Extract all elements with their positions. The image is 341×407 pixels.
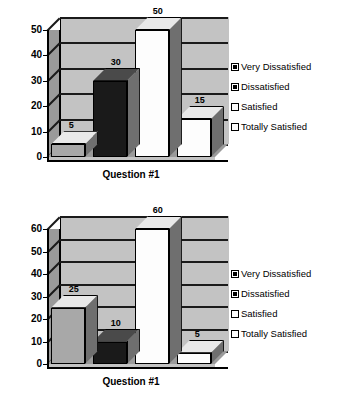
bar-value-label: 25: [69, 285, 79, 294]
chart-legend: Very DissatisfiedDissatisfiedSatisfiedTo…: [231, 268, 311, 348]
chart-2-container: 01020304050605601025Question #1Very Diss…: [0, 200, 341, 407]
bar-3: [135, 17, 182, 157]
chart-legend: Very DissatisfiedDissatisfiedSatisfiedTo…: [231, 61, 311, 141]
legend-item-1[interactable]: Very Dissatisfied: [231, 268, 311, 279]
y-axis-tick-label: 60: [17, 224, 42, 234]
bar-front-face: [135, 30, 169, 157]
y-axis-line: [47, 30, 49, 161]
y-axis-tick-label: 0: [17, 359, 42, 369]
bar-value-label: 30: [111, 58, 121, 67]
y-axis-line: [47, 229, 49, 368]
gray-swatch: [231, 63, 239, 71]
bar-4: [177, 340, 224, 364]
y-axis-tick-label: 40: [17, 269, 42, 279]
legend-item-label: Dissatisfied: [241, 289, 290, 299]
legend-item-label: Satisfied: [241, 309, 277, 319]
legend-item-1[interactable]: Very Dissatisfied: [231, 61, 311, 72]
gray-swatch: [231, 270, 239, 278]
y-axis-tick-label: 50: [17, 25, 42, 35]
y-axis-tick-label: 20: [17, 101, 42, 111]
y-axis-tick-label: 10: [17, 337, 42, 347]
y-axis-tick-label: 30: [17, 292, 42, 302]
legend-item-2[interactable]: Dissatisfied: [231, 81, 311, 92]
white-swatch: [231, 330, 239, 338]
chart-1-container: 010203040501550305Question #1Very Dissat…: [0, 0, 341, 200]
bar-2: [93, 68, 140, 157]
white-swatch: [231, 123, 239, 131]
bar-value-label: 15: [195, 96, 205, 105]
x-axis-title: Question #1: [47, 169, 215, 180]
black-swatch: [231, 290, 239, 298]
x-axis-line: [47, 160, 228, 162]
x-axis-title: Question #1: [47, 376, 215, 387]
y-axis-tick-label: 40: [17, 50, 42, 60]
legend-item-label: Dissatisfied: [241, 82, 290, 92]
y-axis-tick-label: 10: [17, 127, 42, 137]
legend-item-label: Very Dissatisfied: [241, 269, 311, 279]
white-swatch: [231, 310, 239, 318]
bar-value-label: 50: [153, 7, 163, 16]
chart-1-plot-area: 010203040501550305Question #1Very Dissat…: [0, 0, 341, 200]
y-axis-tick-label: 20: [17, 314, 42, 324]
legend-item-label: Satisfied: [241, 102, 277, 112]
y-axis-tick-label: 0: [17, 152, 42, 162]
legend-item-label: Very Dissatisfied: [241, 62, 311, 72]
bar-side-face: [169, 17, 182, 157]
legend-item-4[interactable]: Totally Satisfied: [231, 121, 311, 132]
bar-4: [177, 106, 224, 157]
bar-front-face: [177, 353, 211, 364]
legend-item-2[interactable]: Dissatisfied: [231, 288, 311, 299]
legend-item-3[interactable]: Satisfied: [231, 308, 311, 319]
y-axis-tick-label: 50: [17, 247, 42, 257]
legend-item-4[interactable]: Totally Satisfied: [231, 328, 311, 339]
bar-1: [51, 131, 98, 157]
bar-value-label: 5: [195, 330, 200, 339]
bar-front-face: [93, 342, 127, 365]
bar-front-face: [51, 308, 85, 364]
y-axis-tick-label: 30: [17, 76, 42, 86]
bar-3: [135, 216, 182, 364]
bar-side-face: [127, 68, 140, 157]
legend-item-label: Totally Satisfied: [241, 122, 307, 132]
legend-item-3[interactable]: Satisfied: [231, 101, 311, 112]
white-swatch: [231, 103, 239, 111]
bar-value-label: 10: [111, 319, 121, 328]
bar-1: [51, 295, 98, 364]
bar-2: [93, 329, 140, 365]
bar-side-face: [169, 216, 182, 364]
bar-front-face: [51, 144, 85, 157]
bar-front-face: [177, 119, 211, 157]
legend-item-label: Totally Satisfied: [241, 329, 307, 339]
x-axis-line: [47, 367, 228, 369]
bar-front-face: [93, 81, 127, 157]
bar-value-label: 5: [69, 121, 74, 130]
chart-2-plot-area: 01020304050605601025Question #1Very Diss…: [0, 200, 341, 407]
bar-value-label: 60: [153, 206, 163, 215]
bar-front-face: [135, 229, 169, 364]
black-swatch: [231, 83, 239, 91]
